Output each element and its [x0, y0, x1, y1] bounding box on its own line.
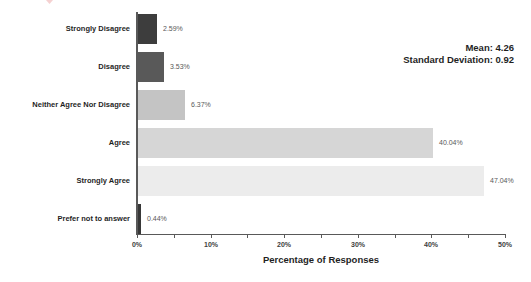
bar-value-label-prefer-not-to-answer: 0.44%: [147, 215, 167, 223]
x-axis-tick-label-0: 0%: [122, 241, 152, 248]
x-axis-tick-10: [211, 235, 212, 238]
category-label-prefer-not-to-answer: Prefer not to answer: [0, 214, 130, 223]
x-axis-tick-25: [321, 235, 322, 238]
x-axis-tick-20: [284, 235, 285, 238]
x-axis-tick-50: [505, 235, 506, 238]
bar-agree: [138, 128, 433, 158]
x-axis-tick-30: [358, 235, 359, 238]
x-axis-tick-15: [247, 235, 248, 238]
std-deviation-value: Standard Deviation: 0.92: [403, 54, 514, 66]
bar-value-label-disagree: 3.53%: [170, 63, 190, 71]
red-triangle-artifact: [46, 0, 53, 4]
bar-value-label-strongly-agree: 47.04%: [490, 177, 514, 185]
bar-neither-agree-nor-disagree: [138, 90, 185, 120]
bar-value-label-strongly-disagree: 2.59%: [163, 25, 183, 33]
mean-value: Mean: 4.26: [403, 42, 514, 54]
bar-chart: Strongly Disagree2.59%Disagree3.53%Neith…: [0, 0, 531, 282]
bar-disagree: [138, 52, 164, 82]
x-axis-tick-0: [137, 235, 138, 238]
x-axis-tick-label-40: 40%: [416, 241, 446, 248]
y-axis-line: [136, 12, 138, 235]
category-label-disagree: Disagree: [0, 62, 130, 71]
bar-value-label-neither-agree-nor-disagree: 6.37%: [191, 101, 211, 109]
x-axis-tick-label-20: 20%: [269, 241, 299, 248]
x-axis-tick-5: [174, 235, 175, 238]
x-axis-tick-label-30: 30%: [343, 241, 373, 248]
bar-strongly-agree: [138, 166, 484, 196]
x-axis-tick-40: [431, 235, 432, 238]
x-axis-tick-45: [468, 235, 469, 238]
stats-annotation: Mean: 4.26 Standard Deviation: 0.92: [403, 42, 514, 66]
x-axis-title: Percentage of Responses: [137, 254, 505, 265]
bar-strongly-disagree: [138, 14, 157, 44]
x-axis-tick-35: [395, 235, 396, 238]
x-axis-tick-label-50: 50%: [490, 241, 520, 248]
bar-value-label-agree: 40.04%: [439, 139, 463, 147]
x-axis-tick-label-10: 10%: [196, 241, 226, 248]
category-label-agree: Agree: [0, 138, 130, 147]
bar-prefer-not-to-answer: [138, 204, 141, 234]
category-label-neither-agree-nor-disagree: Neither Agree Nor Disagree: [0, 100, 130, 109]
category-label-strongly-disagree: Strongly Disagree: [0, 24, 130, 33]
category-label-strongly-agree: Strongly Agree: [0, 176, 130, 185]
